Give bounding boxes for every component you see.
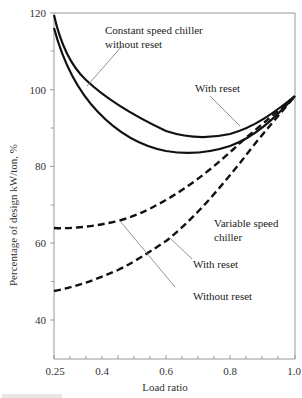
svg-text:1.0: 1.0 [287, 365, 301, 377]
x-axis-title: Load ratio [142, 381, 188, 393]
svg-text:40: 40 [35, 314, 47, 326]
leader-line [170, 238, 192, 259]
line-variable-with-reset [54, 96, 295, 228]
svg-text:100: 100 [30, 84, 47, 96]
svg-text:without reset: without reset [105, 38, 162, 50]
y-axis-title: Percentage of design kW/ton, % [7, 144, 19, 286]
annotation-variable-speed: Variable speed [214, 217, 279, 229]
svg-text:0.25: 0.25 [45, 365, 65, 377]
leader-line [120, 221, 175, 287]
x-ticks [54, 355, 295, 359]
y-ticks [50, 13, 54, 320]
leader-line [87, 46, 122, 86]
plot-frame [54, 13, 295, 359]
leader-line [210, 96, 240, 126]
svg-text:0.4: 0.4 [95, 365, 109, 377]
svg-text:60: 60 [35, 237, 47, 249]
svg-text:80: 80 [35, 160, 47, 172]
series-lines [54, 15, 295, 291]
annotation-constant-speed: Constant speed chiller [105, 24, 203, 36]
x-tick-labels: 0.25 0.4 0.6 0.8 1.0 [45, 365, 301, 377]
svg-text:0.8: 0.8 [223, 365, 237, 377]
chart: 120 100 80 60 40 0.25 0.4 0.6 0.8 1.0 Lo… [0, 0, 302, 398]
svg-text:0.6: 0.6 [159, 365, 173, 377]
caption-fragment [2, 394, 62, 398]
svg-text:120: 120 [30, 7, 47, 19]
annotation-constant-with-reset: With reset [195, 82, 240, 94]
annotations: Constant speed chiller without reset Wit… [87, 24, 279, 302]
svg-text:chiller: chiller [214, 231, 242, 243]
y-tick-labels: 120 100 80 60 40 [30, 7, 47, 326]
annotation-variable-with-reset: With reset [193, 258, 238, 270]
annotation-variable-without-reset: Without reset [193, 290, 252, 302]
